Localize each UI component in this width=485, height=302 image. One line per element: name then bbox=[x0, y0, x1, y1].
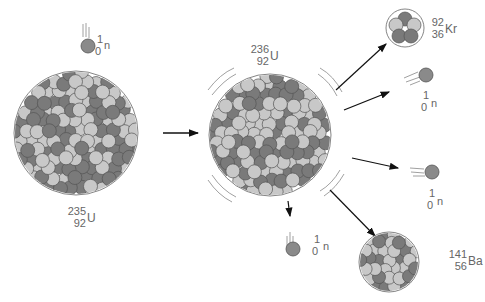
u235-symbol: U bbox=[87, 211, 96, 225]
neutron-charge: 0 bbox=[427, 200, 433, 211]
u235-label: 235 92 U bbox=[40, 205, 100, 235]
ba141-label: 141 56 Ba bbox=[421, 248, 485, 278]
released-neutron-2 bbox=[410, 165, 439, 179]
u236-nucleus bbox=[204, 68, 344, 202]
kr92-charge: 36 bbox=[432, 28, 444, 40]
neutron-symbol: n bbox=[323, 241, 329, 252]
u236-charge: 92 bbox=[257, 55, 269, 67]
ba141-charge: 56 bbox=[455, 260, 467, 272]
neutron-symbol: n bbox=[437, 196, 443, 207]
neutron-charge: 0 bbox=[421, 102, 427, 113]
neutron-ball-icon bbox=[81, 39, 95, 53]
neutron-mass: 1 bbox=[423, 90, 429, 101]
kr92-mass: 92 bbox=[432, 16, 444, 28]
kr92-label: 92 36 Kr bbox=[398, 16, 458, 46]
u236-label: 236 92 U bbox=[223, 43, 283, 73]
neutron-symbol: n bbox=[431, 98, 437, 109]
neutron-ball-icon bbox=[419, 68, 433, 82]
u235-mass: 235 bbox=[68, 205, 86, 217]
neutron-charge: 0 bbox=[95, 46, 101, 57]
neutron-ball-icon bbox=[286, 242, 300, 256]
kr92-symbol: Kr bbox=[445, 22, 457, 36]
ba141-symbol: Ba bbox=[468, 254, 483, 268]
neutron-mass: 1 bbox=[429, 188, 435, 199]
released-neutron-1 bbox=[404, 68, 433, 85]
ba141-mass: 141 bbox=[449, 248, 467, 260]
u235-nucleus bbox=[7, 65, 142, 197]
u236-symbol: U bbox=[270, 49, 279, 63]
ba141-nucleus bbox=[354, 227, 424, 295]
u235-charge: 92 bbox=[74, 217, 86, 229]
neutron-mass: 1 bbox=[97, 34, 103, 45]
neutron-symbol: n bbox=[104, 40, 110, 51]
neutron-charge: 0 bbox=[312, 246, 318, 257]
incoming-neutron bbox=[81, 23, 95, 53]
neutron-ball-icon bbox=[425, 165, 439, 179]
neutron-mass: 1 bbox=[314, 234, 320, 245]
released-neutron-3 bbox=[286, 232, 300, 256]
u236-mass: 236 bbox=[251, 43, 269, 55]
